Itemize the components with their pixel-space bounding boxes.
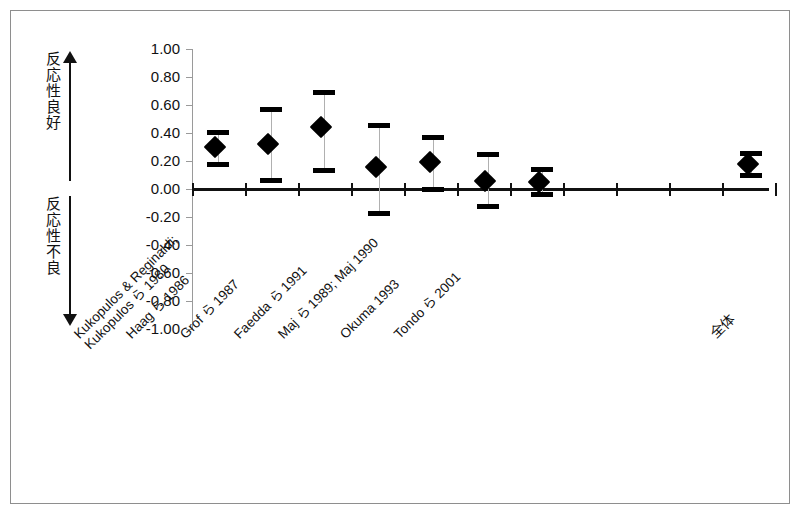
annotation-poor-response: 反応性不良 — [43, 196, 78, 326]
y-axis-tick — [186, 301, 192, 302]
x-axis-tick — [351, 183, 353, 196]
effect-size-marker — [419, 151, 442, 174]
confidence-interval-lower-cap — [531, 192, 553, 197]
effect-size-marker — [737, 152, 760, 175]
confidence-interval-upper-cap — [207, 130, 229, 135]
x-axis-tick — [616, 183, 618, 196]
x-axis-tick — [669, 183, 671, 196]
y-axis-tick — [186, 161, 192, 162]
y-axis-tick-label: 1.00 — [118, 40, 180, 57]
annotation-good-response-text: 反応性良好 — [43, 51, 60, 131]
chart-page: 反応性良好 反応性不良 1.000.800.600.400.200.00-0.2… — [0, 0, 802, 516]
x-axis-tick — [404, 183, 406, 196]
effect-size-marker — [310, 116, 333, 139]
y-axis-tick — [186, 77, 192, 78]
y-axis-tick-label: 0.00 — [118, 180, 180, 197]
confidence-interval-upper-cap — [422, 135, 444, 140]
x-axis-tick — [510, 183, 512, 196]
confidence-interval-lower-cap — [477, 204, 499, 209]
x-axis-tick — [298, 183, 300, 196]
x-axis-tick — [775, 183, 777, 196]
confidence-interval-upper-cap — [368, 123, 390, 128]
confidence-interval-upper-cap — [531, 167, 553, 172]
confidence-interval-lower-cap — [313, 168, 335, 173]
up-arrow-icon — [62, 51, 78, 181]
y-axis-tick — [186, 105, 192, 106]
y-axis-tick-label: 0.40 — [118, 124, 180, 141]
x-axis-tick — [457, 183, 459, 196]
y-axis-tick — [186, 273, 192, 274]
confidence-interval-lower-cap — [207, 162, 229, 167]
effect-size-marker — [204, 136, 227, 159]
confidence-interval-lower-cap — [260, 178, 282, 183]
y-axis-tick — [186, 217, 192, 218]
confidence-interval-upper-cap — [260, 107, 282, 112]
y-axis-tick-label: 0.60 — [118, 96, 180, 113]
confidence-interval-lower-cap — [422, 187, 444, 192]
annotation-poor-response-text: 反応性不良 — [43, 196, 60, 276]
y-axis-tick-label: 0.20 — [118, 152, 180, 169]
y-axis-tick-label: 0.80 — [118, 68, 180, 85]
annotation-good-response: 反応性良好 — [43, 51, 78, 181]
effect-size-marker — [365, 155, 388, 178]
confidence-interval-lower-cap — [740, 173, 762, 178]
x-axis-tick — [245, 183, 247, 196]
y-axis-tick — [186, 49, 192, 50]
x-axis-tick — [563, 183, 565, 196]
y-axis-tick — [186, 245, 192, 246]
confidence-interval-upper-cap — [313, 90, 335, 95]
x-axis-tick — [722, 183, 724, 196]
effect-size-marker — [257, 133, 280, 156]
confidence-interval-upper-cap — [477, 152, 499, 157]
confidence-interval-lower-cap — [368, 211, 390, 216]
figure-frame: 反応性良好 反応性不良 1.000.800.600.400.200.00-0.2… — [10, 10, 790, 504]
y-axis-tick — [186, 133, 192, 134]
down-arrow-icon — [62, 196, 78, 326]
y-axis-tick-label: -0.20 — [118, 208, 180, 225]
x-axis-tick — [192, 183, 194, 196]
